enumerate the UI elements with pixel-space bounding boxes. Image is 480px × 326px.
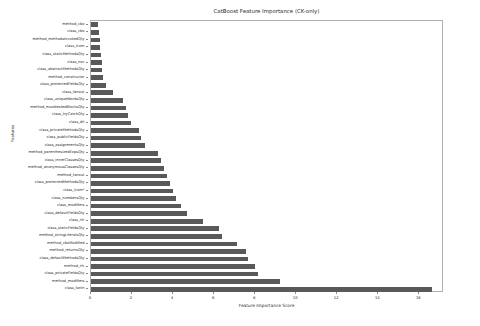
chart-title: CatBoost Feature Importance (CK-only) — [90, 8, 443, 14]
y-axis-tick-label: class_abstractMethodsQty — [37, 67, 84, 71]
bar — [91, 75, 103, 80]
bar — [91, 121, 131, 126]
x-axis-tick-mark — [213, 292, 214, 294]
bar — [91, 287, 432, 292]
x-axis-tick-mark — [418, 292, 419, 294]
x-axis-tick-mark — [377, 292, 378, 294]
y-axis-tick-mark — [86, 130, 88, 131]
y-axis-tick-mark — [86, 24, 88, 25]
y-axis-tick-mark — [86, 220, 88, 221]
y-axis-tick-label: class_modifiers — [57, 203, 85, 207]
y-axis-tick-label: method_cboModified — [47, 241, 84, 245]
bar — [91, 98, 123, 103]
y-axis-tick-mark — [86, 243, 88, 244]
y-axis-tick-mark — [86, 250, 88, 251]
bar — [91, 90, 113, 95]
y-axis-tick-mark — [86, 77, 88, 78]
x-axis-tick-label: 4 — [171, 295, 173, 300]
y-axis-tick-mark — [86, 122, 88, 123]
y-axis-tick-mark — [86, 167, 88, 168]
y-axis-tick-labels: method_cboclass_cbomethod_methodsInvoked… — [0, 20, 88, 292]
y-axis-tick-mark — [86, 114, 88, 115]
y-axis-tick-label: class_protectedMethodsQty — [35, 180, 85, 184]
y-axis-tick-label: method_cbo — [62, 22, 84, 26]
y-axis-tick-mark — [86, 92, 88, 93]
bar — [91, 242, 237, 247]
plot-area — [90, 20, 443, 292]
y-axis-tick-label: method_rfc — [64, 264, 84, 268]
x-axis-label: Feature Importance Score — [90, 303, 443, 308]
y-axis-tick-label: method_constructor — [48, 75, 84, 79]
bar — [91, 219, 203, 224]
bar — [91, 143, 145, 148]
x-axis-tick-mark — [172, 292, 173, 294]
y-axis-tick-label: method_returnsQty — [50, 248, 85, 252]
x-axis-tick-mark — [336, 292, 337, 294]
bar — [91, 204, 181, 209]
bar — [91, 234, 222, 239]
y-axis-tick-label: class_uniqueWordsQty — [44, 97, 85, 101]
y-axis-tick-mark — [86, 235, 88, 236]
bars-layer — [91, 21, 442, 291]
y-axis-tick-mark — [86, 198, 88, 199]
bar — [91, 189, 173, 194]
y-axis-tick-label: class_numbersQty — [52, 196, 85, 200]
x-axis-tick-label: 16 — [416, 295, 421, 300]
x-axis-tick-mark — [90, 292, 91, 294]
y-axis-tick-label: class_fanout — [62, 90, 84, 94]
y-axis-tick-label: method_parenthesizedExpsQty — [28, 150, 84, 154]
y-axis-tick-label: class_publicFieldsQty — [46, 135, 84, 139]
y-axis-tick-label: class_rfc — [69, 218, 84, 222]
x-axis-tick-label: 10 — [293, 295, 298, 300]
x-axis-tick-label: 2 — [130, 295, 132, 300]
y-axis-tick-mark — [86, 205, 88, 206]
y-axis-tick-label: method_methodsInvokedQty — [33, 37, 85, 41]
bar — [91, 151, 158, 156]
bar — [91, 264, 255, 269]
y-axis-tick-label: method_anonymousClassesQty — [28, 165, 85, 169]
bar — [91, 53, 101, 58]
y-axis-tick-label: class_defaultFieldsQty — [45, 211, 85, 215]
y-axis-tick-mark — [86, 281, 88, 282]
y-axis-tick-mark — [86, 46, 88, 47]
x-axis-tick-label: 14 — [375, 295, 380, 300]
y-axis-tick-label: method_fanout — [57, 173, 84, 177]
bar — [91, 136, 141, 141]
y-axis-tick-label: method_modifiers — [52, 279, 84, 283]
x-axis-tick-mark — [131, 292, 132, 294]
bar — [91, 249, 246, 254]
y-axis-tick-mark — [86, 62, 88, 63]
y-axis-tick-label: class_protectedFieldsQty — [40, 82, 85, 86]
y-axis-tick-mark — [86, 228, 88, 229]
y-axis-tick-mark — [86, 107, 88, 108]
x-axis-tick-label: 6 — [212, 295, 214, 300]
y-axis-tick-label: method_maxNestedBlocksQty — [30, 105, 84, 109]
y-axis-tick-mark — [86, 145, 88, 146]
x-axis-tick-label: 12 — [334, 295, 339, 300]
bar — [91, 174, 167, 179]
y-axis-tick-mark — [86, 54, 88, 55]
y-axis-tick-label: class_lcom* — [63, 188, 84, 192]
bar — [91, 257, 248, 262]
y-axis-tick-label: class_innerClassesQty — [45, 158, 85, 162]
bar — [91, 279, 280, 284]
bar — [91, 45, 100, 50]
y-axis-tick-mark — [86, 39, 88, 40]
bar — [91, 38, 100, 43]
bar — [91, 128, 139, 133]
bar — [91, 272, 258, 277]
bar — [91, 83, 106, 88]
y-axis-tick-mark — [86, 213, 88, 214]
y-axis-tick-label: class_assignmentsQty — [45, 143, 85, 147]
y-axis-tick-label: class_lcom — [65, 44, 84, 48]
y-axis-tick-label: class_noc — [67, 60, 84, 64]
y-axis-tick-label: class_dit — [69, 120, 84, 124]
y-axis-tick-mark — [86, 190, 88, 191]
y-axis-tick-label: class_staticFieldsQty — [47, 226, 84, 230]
y-axis-tick-label: class_defaultMethodsQty — [39, 256, 84, 260]
y-axis-tick-label: class_staticMethodsQty — [42, 52, 84, 56]
bar — [91, 158, 161, 163]
bar — [91, 22, 98, 27]
y-axis-tick-mark — [86, 182, 88, 183]
y-axis-tick-mark — [86, 31, 88, 32]
